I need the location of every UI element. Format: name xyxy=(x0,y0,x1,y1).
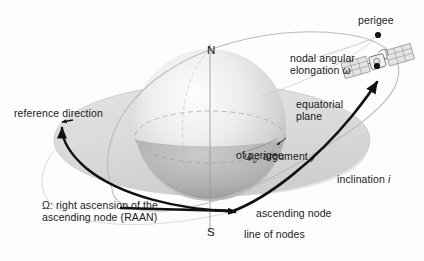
label-nodal-angular-line2: elongation ω xyxy=(290,64,351,77)
inclination-symbol: i xyxy=(388,173,390,185)
label-south-pole: S xyxy=(207,226,215,239)
label-reference-direction: reference direction xyxy=(14,107,103,120)
orbital-elements-diagram: reference direction perigee nodal angula… xyxy=(0,0,424,261)
label-perigee: perigee xyxy=(358,14,394,27)
label-equatorial-line1: equatorial xyxy=(296,98,343,111)
label-raan-line2: ascending node (RAAN) xyxy=(42,211,157,224)
satellite-position-dot xyxy=(374,63,380,69)
label-nodal-angular-line1: nodal angular xyxy=(290,52,355,65)
label-ascending-node: ascending node xyxy=(256,207,332,220)
label-line-of-nodes: line of nodes xyxy=(244,228,305,241)
inclination-text: inclination xyxy=(337,173,388,185)
label-equatorial-line2: plane xyxy=(296,110,322,123)
label-raan-line1: Ω: right ascension of the xyxy=(42,199,158,212)
label-inclination: inclination i xyxy=(325,160,390,198)
label-argument-line2: of perigee xyxy=(236,149,284,162)
label-north-pole: N xyxy=(207,44,215,57)
